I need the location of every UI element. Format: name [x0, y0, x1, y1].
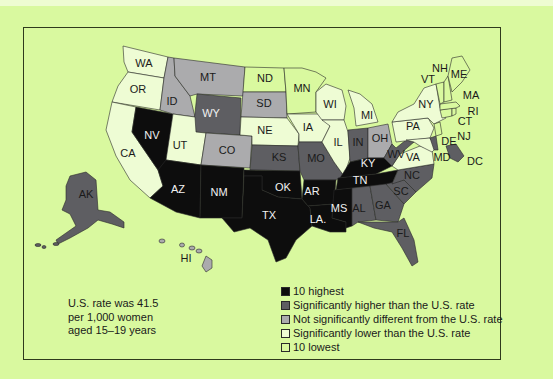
legend: 10 highest Significantly higher than the… — [281, 284, 503, 354]
us-rate-note: U.S. rate was 41.5 per 1,000 women aged … — [68, 297, 159, 338]
state-AK-island — [35, 244, 41, 247]
state-HI-island — [180, 243, 185, 247]
state-label-SC: SC — [393, 185, 408, 197]
state-label-WI: WI — [323, 98, 336, 110]
state-label-DC: DC — [467, 155, 483, 167]
state-label-IA: IA — [303, 121, 314, 133]
legend-item-highest: 10 highest — [281, 284, 503, 298]
state-FL — [358, 218, 418, 266]
state-label-PA: PA — [406, 120, 421, 132]
state-label-MI: MI — [361, 109, 373, 121]
state-label-KY: KY — [361, 157, 376, 169]
state-label-NJ: NJ — [457, 130, 470, 142]
state-AK — [56, 172, 124, 244]
state-HI — [202, 256, 212, 272]
legend-label: 10 lowest — [293, 340, 339, 354]
state-label-CO: CO — [219, 144, 236, 156]
note-line-3: aged 15–19 years — [68, 324, 159, 338]
legend-label: Significantly higher than the U.S. rate — [293, 298, 475, 312]
state-AK-island — [42, 246, 46, 249]
state-label-LA: LA. — [310, 213, 327, 225]
state-label-SD: SD — [256, 97, 271, 109]
note-line-1: U.S. rate was 41.5 — [68, 297, 159, 311]
state-label-HI: HI — [181, 252, 192, 264]
state-HI-island — [196, 249, 202, 253]
state-AK-island — [53, 243, 59, 246]
legend-item-lower: Significantly lower than the U.S. rate — [281, 326, 503, 340]
state-label-NV: NV — [144, 129, 160, 141]
state-HI-island — [159, 239, 165, 243]
legend-swatch-not-significant — [281, 315, 290, 324]
state-label-AL: AL — [352, 202, 365, 214]
state-label-ME: ME — [451, 68, 468, 80]
state-label-RI: RI — [468, 105, 479, 117]
state-label-FL: FL — [397, 227, 410, 239]
state-label-ID: ID — [167, 95, 178, 107]
state-label-AZ: AZ — [171, 183, 185, 195]
state-label-WV: WV — [387, 148, 405, 160]
state-label-KS: KS — [272, 151, 287, 163]
legend-swatch-lowest — [281, 343, 290, 352]
state-label-OR: OR — [130, 83, 147, 95]
legend-swatch-higher — [281, 301, 290, 310]
state-label-TX: TX — [262, 209, 277, 221]
legend-label: 10 highest — [293, 284, 344, 298]
legend-item-lowest: 10 lowest — [281, 340, 503, 354]
state-label-WA: WA — [135, 57, 153, 69]
state-label-OK: OK — [275, 181, 292, 193]
state-label-MD: MD — [433, 151, 450, 163]
state-label-NE: NE — [257, 124, 272, 136]
state-label-AR: AR — [304, 185, 319, 197]
state-NJ — [434, 122, 442, 136]
state-label-CA: CA — [120, 147, 136, 159]
legend-item-higher: Significantly higher than the U.S. rate — [281, 298, 503, 312]
state-MA — [440, 102, 460, 110]
state-label-TN: TN — [353, 174, 368, 186]
state-RI — [452, 108, 456, 116]
state-label-MA: MA — [463, 89, 480, 101]
note-line-2: per 1,000 women — [68, 311, 159, 325]
state-label-UT: UT — [173, 139, 188, 151]
state-label-MT: MT — [200, 71, 216, 83]
legend-label: Not significantly different from the U.S… — [293, 312, 503, 326]
state-label-VA: VA — [406, 151, 421, 163]
state-label-MN: MN — [293, 82, 310, 94]
state-label-IN: IN — [353, 136, 364, 148]
state-label-OH: OH — [372, 132, 389, 144]
state-label-NC: NC — [404, 169, 420, 181]
legend-item-not-significant: Not significantly different from the U.S… — [281, 312, 503, 326]
state-label-MO: MO — [307, 152, 325, 164]
state-label-DE: DE — [441, 135, 456, 147]
state-label-GA: GA — [375, 199, 392, 211]
legend-swatch-highest — [281, 287, 290, 296]
state-label-NM: NM — [210, 186, 227, 198]
state-label-WY: WY — [202, 107, 220, 119]
state-label-IL: IL — [333, 136, 342, 148]
state-label-MS: MS — [331, 202, 348, 214]
state-label-ND: ND — [257, 72, 273, 84]
state-label-VT: VT — [421, 73, 435, 85]
state-label-AK: AK — [79, 188, 94, 200]
legend-swatch-lower — [281, 329, 290, 338]
state-label-NY: NY — [418, 98, 434, 110]
state-HI-island — [189, 246, 195, 250]
legend-label: Significantly lower than the U.S. rate — [293, 326, 470, 340]
